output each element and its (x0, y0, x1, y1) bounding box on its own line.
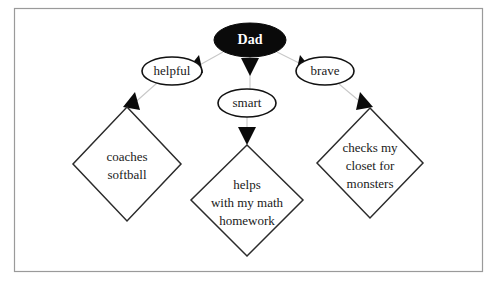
checks-closet-monsters-line-2: closet for (346, 158, 395, 173)
coaches-softball-line-1: coaches (106, 149, 147, 164)
arrowhead-helpful-coaches (123, 92, 140, 110)
helps-math-homework-line-2: with my math (211, 195, 284, 210)
arrowhead-brave-checks (356, 92, 373, 110)
checks-closet-monsters-line-3: monsters (347, 176, 394, 191)
brave-label: brave (311, 63, 340, 78)
node-checks-closet-monsters[interactable]: checks my closet for monsters (317, 108, 423, 218)
node-coaches-softball[interactable]: coaches softball (73, 107, 181, 221)
helps-math-homework-line-1: helps (233, 177, 260, 192)
node-smart[interactable]: smart (218, 89, 276, 117)
node-helpful[interactable]: helpful (142, 57, 202, 85)
coaches-softball-diamond (73, 107, 181, 221)
arrowhead-smart-helps (238, 127, 256, 145)
helps-math-homework-line-3: homework (219, 213, 275, 228)
diagram-canvas: Dad helpful smart brave coaches softball… (0, 0, 496, 285)
helpful-label: helpful (154, 63, 191, 78)
coaches-softball-line-2: softball (108, 167, 147, 182)
node-dad[interactable]: Dad (214, 23, 286, 57)
node-helps-math-homework[interactable]: helps with my math homework (191, 145, 303, 256)
dad-label: Dad (238, 32, 263, 47)
checks-closet-monsters-line-1: checks my (342, 140, 398, 155)
arrowhead-dad-smart (241, 58, 259, 76)
smart-label: smart (233, 95, 262, 110)
node-brave[interactable]: brave (296, 57, 354, 85)
concept-map-diagram: Dad helpful smart brave coaches softball… (0, 0, 496, 285)
